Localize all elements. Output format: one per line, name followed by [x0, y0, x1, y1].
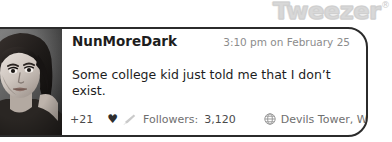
avatar[interactable] — [0, 29, 62, 135]
footer-right-group[interactable]: Devils Tower, WY — [264, 113, 368, 126]
footer-left-group: +21 ♥ Followers: 3,120 — [72, 113, 236, 126]
brand-logo: Tweezer ® — [278, 0, 390, 28]
timestamp: 3:10 pm on February 25 — [223, 36, 352, 48]
heart-icon[interactable]: ♥ — [107, 113, 118, 125]
avatar-photo-icon — [0, 29, 62, 135]
followers-count: 3,120 — [204, 113, 236, 126]
post-message: Some college kid just told me that I don… — [72, 67, 352, 98]
plus-count[interactable]: +21 — [70, 113, 93, 126]
username[interactable]: NunMoreDark — [72, 33, 177, 49]
location-text: Devils Tower, WY — [281, 113, 368, 126]
post-footer: +21 ♥ Followers: 3,120 — [72, 106, 352, 135]
message-row: Some college kid just told me that I don… — [72, 59, 352, 106]
registered-trademark-icon: ® — [381, 1, 390, 10]
brand-name: Tweezer — [272, 0, 380, 23]
post-header: NunMoreDark 3:10 pm on February 25 — [72, 29, 352, 59]
globe-icon — [264, 113, 276, 125]
followers-label: Followers: — [143, 113, 198, 126]
post-card[interactable]: NunMoreDark 3:10 pm on February 25 Some … — [0, 27, 368, 137]
sparkle-icon[interactable] — [123, 114, 136, 125]
post-body: NunMoreDark 3:10 pm on February 25 Some … — [62, 29, 366, 135]
